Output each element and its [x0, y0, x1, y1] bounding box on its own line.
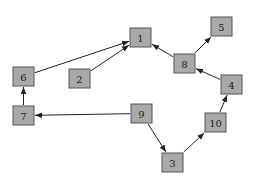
edge-8-to-5	[195, 37, 211, 53]
graph-canvas: 12345678910	[0, 0, 253, 183]
node-4[interactable]: 4	[221, 75, 242, 94]
node-label: 8	[181, 59, 187, 70]
edges-layer	[24, 37, 228, 152]
node-6[interactable]: 6	[13, 67, 34, 86]
node-label: 2	[76, 74, 82, 85]
node-label: 4	[228, 80, 234, 91]
edge-3-to-10	[184, 133, 204, 152]
node-7[interactable]: 7	[13, 106, 34, 125]
node-label: 3	[169, 158, 175, 169]
node-8[interactable]: 8	[174, 54, 195, 73]
edge-10-to-4	[220, 95, 227, 112]
edge-4-to-8	[196, 69, 220, 80]
node-10[interactable]: 10	[205, 113, 226, 132]
edge-2-to-1	[91, 45, 129, 71]
node-label: 10	[209, 118, 222, 129]
node-label: 5	[218, 22, 224, 33]
edge-6-to-1	[35, 41, 129, 72]
edge-8-to-1	[152, 44, 173, 56]
node-label: 1	[137, 33, 143, 44]
node-label: 7	[20, 111, 26, 122]
node-1[interactable]: 1	[130, 28, 151, 47]
node-2[interactable]: 2	[69, 69, 90, 88]
edge-9-to-3	[148, 124, 166, 152]
node-label: 9	[138, 109, 144, 120]
node-5[interactable]: 5	[211, 17, 232, 36]
node-3[interactable]: 3	[162, 153, 183, 172]
node-label: 6	[20, 72, 26, 83]
node-9[interactable]: 9	[131, 104, 152, 123]
edge-9-to-7	[35, 114, 130, 116]
